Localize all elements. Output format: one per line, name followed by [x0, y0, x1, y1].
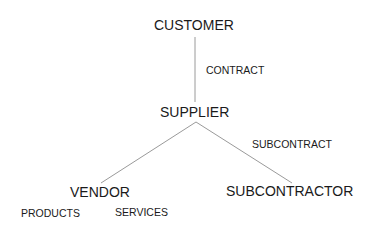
supply-chain-diagram: CUSTOMER CONTRACT SUPPLIER SUBCONTRACT V…	[0, 0, 378, 237]
node-customer: CUSTOMER	[154, 18, 234, 32]
vendor-item-services: SERVICES	[115, 207, 168, 218]
node-vendor: VENDOR	[70, 185, 130, 199]
edge-label-contract: CONTRACT	[206, 65, 264, 76]
edge-label-subcontract: SUBCONTRACT	[252, 139, 332, 150]
node-supplier: SUPPLIER	[160, 105, 229, 119]
supplier-subcontractor-line	[196, 122, 292, 183]
node-subcontractor: SUBCONTRACTOR	[226, 184, 353, 198]
supplier-vendor-line	[101, 122, 196, 183]
vendor-item-products: PRODUCTS	[21, 208, 80, 219]
